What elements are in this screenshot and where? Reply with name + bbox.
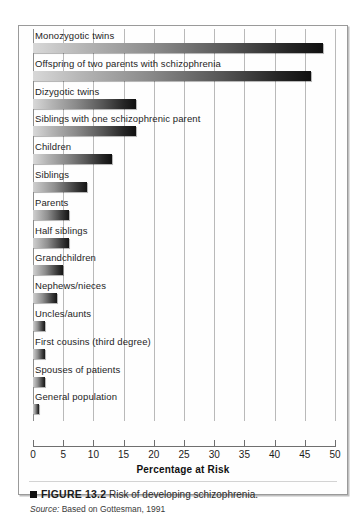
- bar-category-label: First cousins (third degree): [35, 335, 151, 348]
- x-tick-0: [33, 440, 34, 446]
- bar-row: Children: [33, 140, 335, 168]
- bar: [33, 321, 45, 331]
- bar-row: Spouses of patients: [33, 363, 335, 391]
- bar: [33, 99, 136, 109]
- gridline-50: [335, 29, 336, 421]
- bar-category-label: Siblings with one schizophrenic parent: [35, 112, 200, 125]
- figure-caption-text: Risk of developing schizophrenia.: [109, 489, 258, 500]
- bar: [33, 349, 45, 359]
- black-square-icon: [30, 491, 37, 498]
- bar-category-label: Grandchildren: [35, 251, 96, 264]
- bar-row: Dizygotic twins: [33, 85, 335, 113]
- bar: [33, 404, 39, 414]
- x-tick-label: 35: [239, 449, 250, 460]
- x-tick-label: 10: [88, 449, 99, 460]
- x-tick-label: 45: [299, 449, 310, 460]
- bar-category-label: Nephews/nieces: [35, 279, 106, 292]
- bar-category-label: Offspring of two parents with schizophre…: [35, 57, 221, 70]
- bar-row: Uncles/aunts: [33, 307, 335, 335]
- bar-category-label: Uncles/aunts: [35, 307, 91, 320]
- bar: [33, 293, 57, 303]
- bar: [33, 71, 311, 81]
- x-tick-label: 40: [269, 449, 280, 460]
- bar-category-label: Half siblings: [35, 224, 88, 237]
- source-text: Based on Gottesman, 1991: [62, 504, 166, 514]
- figure-caption: FIGURE 13.2 Risk of developing schizophr…: [30, 487, 339, 502]
- x-tick-label: 50: [329, 449, 340, 460]
- bar-category-label: General population: [35, 390, 117, 403]
- bar: [33, 43, 323, 53]
- figure-source: Source: Based on Gottesman, 1991: [30, 504, 165, 514]
- x-tick-label: 25: [178, 449, 189, 460]
- bar-row: Siblings with one schizophrenic parent: [33, 112, 335, 140]
- source-label: Source:: [30, 504, 59, 514]
- x-tick-20: [154, 440, 155, 446]
- bar-row: Monozygotic twins: [33, 29, 335, 57]
- x-tick-30: [214, 440, 215, 446]
- x-tick-label: 30: [209, 449, 220, 460]
- bar-row: Parents: [33, 196, 335, 224]
- bar-row: Offspring of two parents with schizophre…: [33, 57, 335, 85]
- x-tick-label: 0: [30, 449, 36, 460]
- bar-category-label: Children: [35, 140, 71, 153]
- x-tick-10: [93, 440, 94, 446]
- x-tick-15: [124, 440, 125, 446]
- x-tick-25: [184, 440, 185, 446]
- figure-number: FIGURE 13.2: [41, 488, 106, 500]
- x-tick-label: 15: [118, 449, 129, 460]
- bar-row: First cousins (third degree): [33, 335, 335, 363]
- x-axis-line: [33, 446, 336, 447]
- bar-row: Siblings: [33, 168, 335, 196]
- bar-row: Nephews/nieces: [33, 279, 335, 307]
- bar-row: General population: [33, 390, 335, 418]
- x-tick-35: [244, 440, 245, 446]
- x-tick-label: 5: [60, 449, 66, 460]
- bar-category-label: Dizygotic twins: [35, 85, 99, 98]
- bar: [33, 210, 69, 220]
- bar: [33, 126, 136, 136]
- bar-category-label: Siblings: [35, 168, 69, 181]
- bar: [33, 182, 87, 192]
- bar: [33, 238, 69, 248]
- bar-category-label: Spouses of patients: [35, 363, 120, 376]
- figure-frame: Monozygotic twinsOffspring of two parent…: [18, 25, 348, 495]
- x-tick-50: [335, 440, 336, 446]
- chart-plot-area: Monozygotic twinsOffspring of two parent…: [33, 29, 335, 421]
- bar: [33, 154, 112, 164]
- x-tick-40: [275, 440, 276, 446]
- bar-row: Grandchildren: [33, 251, 335, 279]
- bar: [33, 265, 63, 275]
- caption-divider: [29, 481, 337, 482]
- x-tick-label: 20: [148, 449, 159, 460]
- x-axis-title: Percentage at Risk: [19, 464, 347, 475]
- bar: [33, 377, 45, 387]
- bar-category-label: Parents: [35, 196, 68, 209]
- bar-row: Half siblings: [33, 224, 335, 252]
- x-tick-45: [305, 440, 306, 446]
- x-tick-5: [63, 440, 64, 446]
- bar-category-label: Monozygotic twins: [35, 29, 114, 42]
